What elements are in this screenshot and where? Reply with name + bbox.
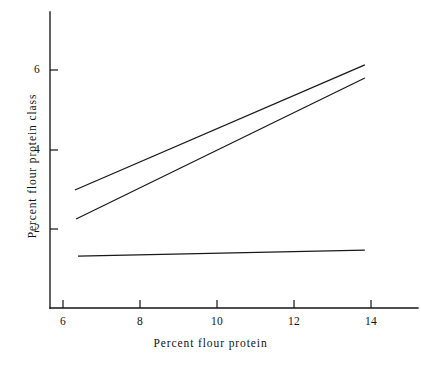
chart-figure: 6 4 2 6 8 10 12 14 Percent flour protein… [0, 0, 421, 366]
x-tick-label-14: 14 [358, 315, 384, 327]
x-tick-label-10: 10 [204, 315, 230, 327]
x-tick-label-6: 6 [50, 315, 76, 327]
x-tick-marks [63, 300, 371, 308]
series-upper-line [75, 65, 365, 190]
plot-area [0, 0, 421, 366]
x-axis-label: Percent flour protein [0, 337, 421, 349]
x-tick-label-8: 8 [127, 315, 153, 327]
x-tick-label-12: 12 [281, 315, 307, 327]
y-tick-marks [50, 70, 58, 229]
series-lower-flat-line [78, 250, 365, 256]
series-middle-line [76, 78, 365, 219]
series-group [75, 65, 365, 256]
y-axis-label: Percent flour protein class [26, 46, 38, 286]
